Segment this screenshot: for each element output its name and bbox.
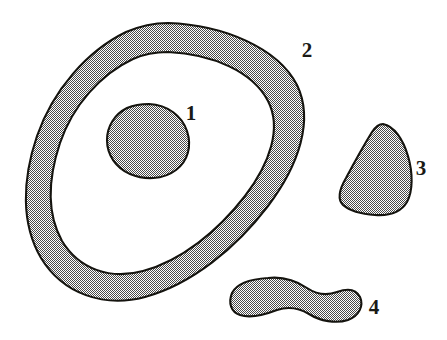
diagram-svg: 1 2 3 4 [0, 0, 447, 340]
region-label-4: 4 [369, 295, 380, 319]
region-1-outline [107, 104, 189, 178]
figure-canvas: 1 2 3 4 [0, 0, 447, 340]
region-1-group [107, 104, 189, 178]
region-label-2: 2 [302, 38, 313, 62]
region-label-1: 1 [186, 101, 197, 125]
region-label-3: 3 [416, 156, 427, 180]
